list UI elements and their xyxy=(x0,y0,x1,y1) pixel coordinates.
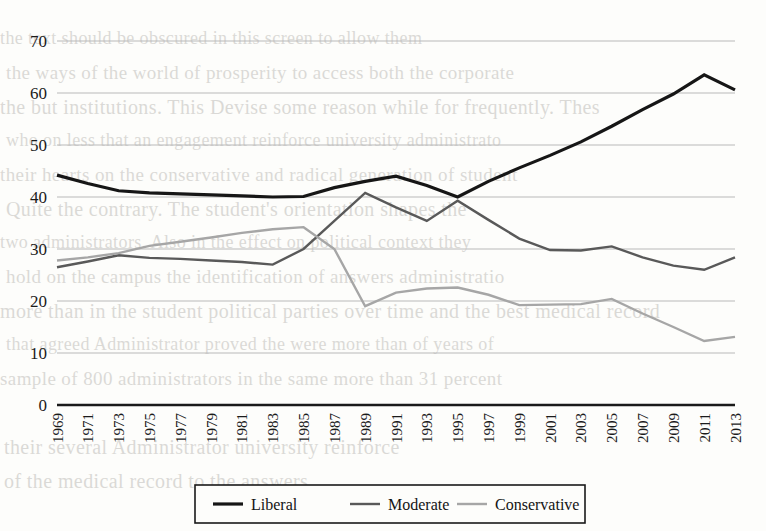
gridlines xyxy=(57,41,735,353)
x-tick-label: 1973 xyxy=(111,413,127,443)
x-tick-label: 1975 xyxy=(142,413,158,443)
x-tick-label: 2005 xyxy=(604,413,620,443)
legend-label-moderate: Moderate xyxy=(388,496,449,513)
x-tick-label: 2013 xyxy=(728,413,744,443)
y-tick-label: 40 xyxy=(30,188,47,207)
series-line-conservative xyxy=(57,227,735,341)
x-tick-label: 1979 xyxy=(204,413,220,443)
x-tick-label: 2007 xyxy=(635,413,651,444)
legend-label-liberal: Liberal xyxy=(251,496,298,513)
x-tick-label: 1977 xyxy=(173,413,189,444)
x-tick-label: 1983 xyxy=(265,413,281,443)
x-tick-label: 1981 xyxy=(234,413,250,443)
x-tick-label: 1995 xyxy=(450,413,466,443)
chart-legend: LiberalModerateConservative xyxy=(195,485,585,523)
x-tick-label: 1997 xyxy=(481,413,497,444)
y-axis-tick-labels: 010203040506070 xyxy=(30,32,47,415)
x-tick-label: 1991 xyxy=(389,413,405,443)
x-tick-label: 1993 xyxy=(419,413,435,443)
x-tick-label: 1969 xyxy=(50,413,66,443)
x-tick-label: 1971 xyxy=(80,413,96,443)
x-tick-label: 2009 xyxy=(666,413,682,443)
legend-label-conservative: Conservative xyxy=(495,496,579,513)
x-axis-tick-labels: 1969197119731975197719791981198319851987… xyxy=(50,413,744,444)
x-tick-label: 2001 xyxy=(543,413,559,443)
x-tick-label: 1985 xyxy=(296,413,312,443)
x-tick-label: 1987 xyxy=(327,413,343,444)
y-tick-label: 10 xyxy=(30,344,47,363)
y-tick-label: 50 xyxy=(30,136,47,155)
x-tick-label: 1999 xyxy=(512,413,528,443)
x-tick-label: 2003 xyxy=(573,413,589,443)
y-tick-label: 60 xyxy=(30,84,47,103)
chart-canvas: 010203040506070 196919711973197519771979… xyxy=(0,0,766,531)
line-chart: 010203040506070 196919711973197519771979… xyxy=(0,0,766,531)
y-tick-label: 20 xyxy=(30,292,47,311)
x-tick-label: 2011 xyxy=(697,413,713,442)
series-line-moderate xyxy=(57,193,735,270)
y-tick-label: 70 xyxy=(30,32,47,51)
y-tick-label: 0 xyxy=(39,396,48,415)
x-tick-label: 1989 xyxy=(358,413,374,443)
y-tick-label: 30 xyxy=(30,240,47,259)
